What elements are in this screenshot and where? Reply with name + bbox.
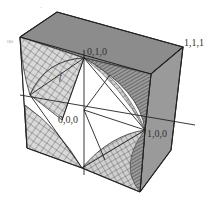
label-corner-000: 0,0,0: [58, 114, 78, 125]
label-left-mark: oo: [7, 38, 13, 44]
label-top-mark: ·: [40, 5, 42, 11]
label-corner-111: 1,1,1: [184, 37, 204, 48]
label-corner-010: 0,1,0: [87, 46, 107, 57]
label-corner-100: 1,0,0: [147, 128, 167, 139]
cube-diagram: 0,1,0 1,1,1 0,0,0 1,0,0 f oo ·: [0, 0, 210, 203]
